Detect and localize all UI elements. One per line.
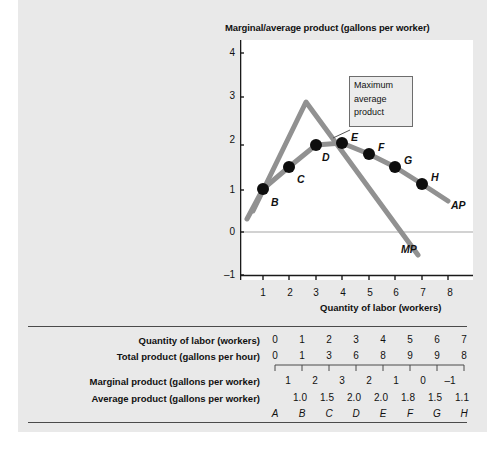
cell-marginal-6: –1 [439, 375, 461, 386]
graph-figure: Marginal/average product (gallons per wo… [18, 0, 487, 325]
cell-quantity-0: 0 [264, 334, 286, 345]
y-tick-label-4: 4 [221, 47, 235, 58]
cell-total-7: 8 [453, 350, 475, 361]
cell-average-5: 1.5 [421, 392, 449, 403]
table-rule-top [28, 326, 467, 327]
cell-point-D: D [345, 408, 367, 419]
x-tick-label-8: 8 [443, 287, 457, 298]
cell-quantity-2: 2 [318, 334, 340, 345]
cell-marginal-5: 0 [412, 375, 434, 386]
data-point-C [283, 161, 295, 173]
point-label-B: B [271, 196, 279, 208]
row-label-total-product: Total product (gallons per hour) [28, 351, 260, 362]
y-tick-label-2: 2 [221, 134, 235, 145]
cell-average-0: 1.0 [286, 392, 314, 403]
x-tick-label-4: 4 [336, 287, 350, 298]
cell-quantity-7: 7 [453, 334, 475, 345]
cell-average-3: 2.0 [367, 392, 395, 403]
point-label-H: H [431, 171, 439, 183]
data-table: Quantity of labor (workers) 0 1 2 3 4 5 … [18, 325, 487, 432]
chart-title: Marginal/average product (gallons per wo… [225, 22, 430, 33]
cell-quantity-5: 5 [399, 334, 421, 345]
x-tick-label-1: 1 [256, 287, 270, 298]
callout-text: Maximum average product [354, 79, 412, 120]
cell-marginal-1: 2 [304, 375, 326, 386]
data-point-E [336, 137, 348, 149]
cell-marginal-4: 1 [385, 375, 407, 386]
point-label-C: C [297, 173, 305, 185]
cell-point-H: H [453, 408, 475, 419]
y-tick-label-neg1: –1 [217, 269, 235, 280]
point-label-E: E [351, 131, 358, 143]
data-point-B [257, 183, 269, 195]
point-label-D: D [322, 151, 330, 163]
cell-point-B: B [291, 408, 313, 419]
cell-quantity-6: 6 [426, 334, 448, 345]
x-tick-label-2: 2 [283, 287, 297, 298]
marginal-product-bracket [264, 364, 474, 374]
cell-total-3: 6 [345, 350, 367, 361]
x-tick-label-7: 7 [416, 287, 430, 298]
cell-marginal-3: 2 [358, 375, 380, 386]
cell-average-4: 1.8 [394, 392, 422, 403]
cell-total-5: 9 [399, 350, 421, 361]
cell-total-6: 9 [426, 350, 448, 361]
cell-average-1: 1.5 [313, 392, 341, 403]
table-rule-bottom [28, 422, 467, 423]
cell-total-1: 1 [291, 350, 313, 361]
data-point-D [310, 139, 322, 151]
cell-point-E: E [372, 408, 394, 419]
cell-point-A: A [264, 408, 286, 419]
cell-quantity-4: 4 [372, 334, 394, 345]
x-tick-label-6: 6 [389, 287, 403, 298]
cell-average-2: 2.0 [340, 392, 368, 403]
point-label-G: G [404, 154, 412, 166]
x-axis-title: Quantity of labor (workers) [320, 302, 441, 313]
figure-page: Marginal/average product (gallons per wo… [0, 0, 487, 449]
cell-total-4: 8 [372, 350, 394, 361]
point-label-F: F [378, 141, 384, 153]
cell-marginal-2: 3 [331, 375, 353, 386]
data-point-H [416, 178, 428, 190]
curve-label-ap: AP [451, 199, 466, 211]
x-tick-label-5: 5 [363, 287, 377, 298]
cell-total-2: 3 [318, 350, 340, 361]
cell-point-G: G [426, 408, 448, 419]
data-point-G [389, 161, 401, 173]
y-tick-label-1: 1 [221, 184, 235, 195]
curve-label-mp: MP [401, 243, 417, 255]
cell-quantity-1: 1 [291, 334, 313, 345]
cell-point-F: F [399, 408, 421, 419]
data-point-F [363, 148, 375, 160]
figure-sheet: Marginal/average product (gallons per wo… [18, 0, 487, 432]
cell-average-6: 1.1 [448, 392, 476, 403]
x-tick-label-3: 3 [309, 287, 323, 298]
cell-total-0: 0 [264, 350, 286, 361]
row-label-average-product: Average product (gallons per worker) [28, 393, 260, 404]
cell-quantity-3: 3 [345, 334, 367, 345]
y-tick-label-3: 3 [221, 90, 235, 101]
cell-point-C: C [318, 408, 340, 419]
row-label-marginal-product: Marginal product (gallons per worker) [28, 376, 260, 387]
cell-marginal-0: 1 [277, 375, 299, 386]
y-tick-label-0: 0 [221, 226, 235, 237]
row-label-quantity-of-labor: Quantity of labor (workers) [28, 335, 260, 346]
